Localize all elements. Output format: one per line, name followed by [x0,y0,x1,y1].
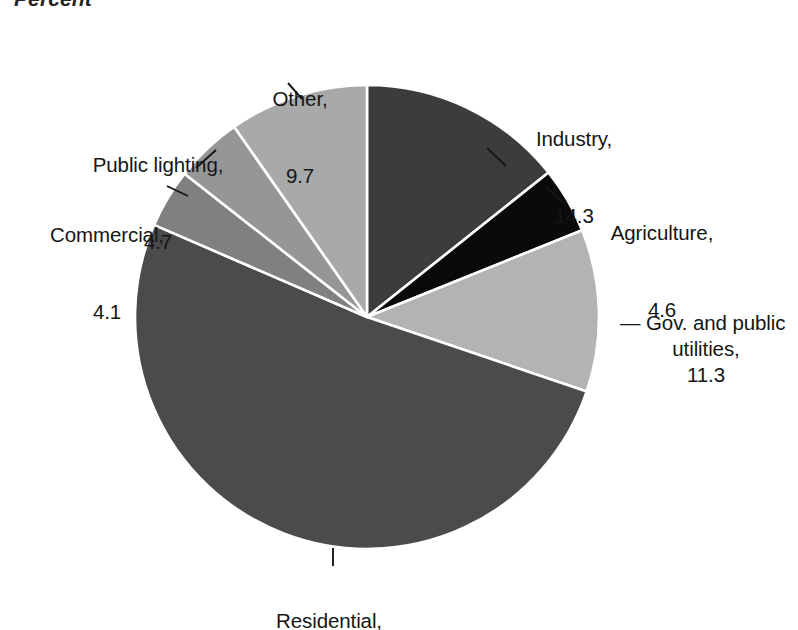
slice-label-gov-utilities-value: 11.3 [620,362,792,388]
slice-label-residential: Residential, 51.3 [224,556,434,630]
slice-label-commercial-value: 4.1 [14,299,200,325]
slice-label-gov-utilities-line2: utilities, [620,336,792,362]
pie-chart-figure: Percent Other, 9.7 Public lighting, 4.7 … [0,0,798,630]
slice-label-agriculture-name: Agriculture, [554,220,770,246]
slice-label-commercial-name: Commercial, [14,222,200,248]
slice-label-gov-utilities-line1: — Gov. and public [620,310,792,336]
slice-label-residential-name: Residential, [224,608,434,630]
slice-label-commercial: Commercial, 4.1 [14,170,200,377]
slice-label-industry-name: Industry, [486,126,662,152]
slice-label-gov-utilities: — Gov. and public utilities, 11.3 [620,310,792,387]
